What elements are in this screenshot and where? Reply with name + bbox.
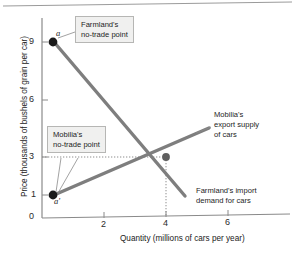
- y-tick-label-0: 0: [29, 211, 34, 221]
- x-tick-label-2: 2: [101, 219, 106, 229]
- supply-curve-label: Mobilia's export supply of cars: [214, 110, 259, 140]
- y-tick-label-1: 1: [31, 189, 36, 199]
- mobilia-callout-leader-1: [56, 158, 61, 192]
- y-tick-label-9: 9: [29, 36, 34, 46]
- mobilia-no-trade-callout: Mobilia's no-trade point: [47, 126, 106, 153]
- demand-curve: [54, 42, 185, 196]
- x-axis-title: Quantity (millions of cars per year): [120, 234, 245, 243]
- page-top-rule: [3, 2, 292, 6]
- demand-label-line-1: Farmland's import: [196, 186, 257, 196]
- economics-chart: 9 6 3 1 0 2 4 6 Price (thousands of bush…: [0, 0, 294, 258]
- supply-label-line-3: of cars: [214, 130, 259, 140]
- mobilia-callout-line-2: no-trade point: [53, 140, 100, 150]
- y-tick-label-3: 3: [29, 151, 34, 161]
- marker-point-a: [49, 38, 58, 47]
- farmland-no-trade-callout: Farmland's no-trade point: [75, 16, 134, 43]
- point-label-a-prime: a′: [54, 196, 60, 206]
- farmland-callout-line-1: Farmland's: [81, 20, 128, 30]
- supply-label-line-1: Mobilia's: [214, 110, 259, 120]
- y-tick-label-6: 6: [29, 94, 34, 104]
- supply-label-line-2: export supply: [214, 120, 259, 130]
- x-tick-label-6: 6: [225, 217, 230, 227]
- marker-equilibrium-point: [162, 153, 170, 161]
- mobilia-callout-line-1: Mobilia's: [53, 130, 100, 140]
- point-label-a: a: [56, 28, 60, 38]
- demand-label-line-2: demand for cars: [196, 196, 257, 206]
- y-axis-title: Price (thousands of bushels of grain per…: [20, 32, 29, 202]
- demand-curve-label: Farmland's import demand for cars: [196, 186, 257, 206]
- farmland-callout-line-2: no-trade point: [81, 30, 128, 40]
- x-tick-label-4: 4: [163, 218, 168, 228]
- farmland-callout-leader: [58, 32, 75, 38]
